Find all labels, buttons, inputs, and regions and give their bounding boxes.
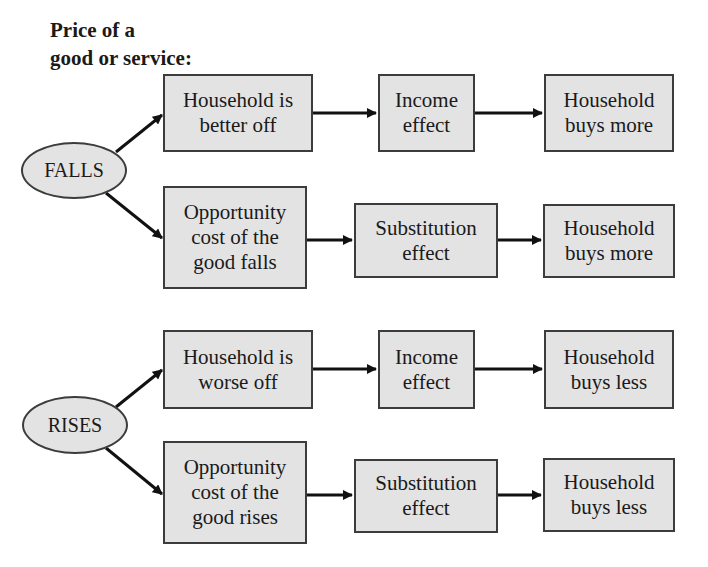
effect-income: Income effect — [378, 74, 475, 152]
result-buys-more: Household buys more — [543, 204, 675, 278]
trigger-falls: FALLS — [21, 142, 127, 199]
effect-income: Income effect — [378, 330, 475, 409]
cause-opportunity-rises: Opportunity cost of the good rises — [163, 441, 307, 544]
effect-substitution: Substitution effect — [354, 203, 498, 278]
result-buys-more: Household buys more — [544, 74, 674, 152]
trigger-rises: RISES — [22, 396, 128, 454]
cause-opportunity-falls: Opportunity cost of the good falls — [163, 186, 307, 289]
arrow-rises-to-worse-off — [116, 370, 162, 407]
cause-better-off: Household is better off — [163, 74, 313, 152]
arrow-falls-to-opportunity — [106, 193, 162, 238]
cause-worse-off: Household is worse off — [163, 330, 313, 409]
effect-substitution: Substitution effect — [354, 459, 498, 533]
result-buys-less: Household buys less — [543, 458, 675, 532]
result-buys-less: Household buys less — [544, 330, 674, 409]
arrow-rises-to-opportunity — [106, 448, 162, 494]
arrow-falls-to-better-off — [116, 115, 162, 152]
